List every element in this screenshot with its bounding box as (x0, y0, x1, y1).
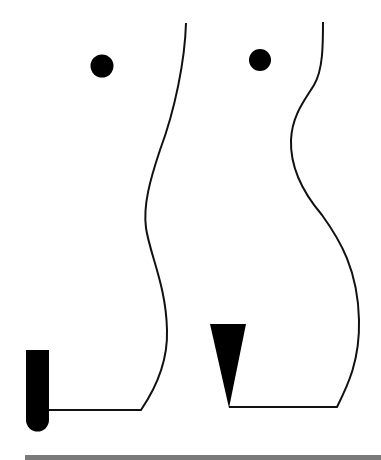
left-body-outline (49, 23, 186, 410)
right-body-outline (229, 22, 359, 407)
left-figure (26, 23, 186, 432)
right-head-dot (249, 49, 271, 71)
left-head-dot (91, 55, 114, 78)
ground-line (25, 455, 381, 460)
posture-diagram (0, 0, 381, 460)
right-triangle-marker (210, 324, 246, 408)
right-figure (210, 22, 359, 408)
left-rounded-bar-marker (26, 350, 49, 432)
